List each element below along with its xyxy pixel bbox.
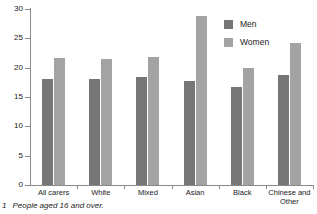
legend-swatch-men-icon	[224, 20, 233, 29]
y-tick-10	[25, 126, 30, 127]
bar-men	[42, 79, 53, 185]
category-label: Chinese and Other	[259, 188, 317, 206]
bar-women	[196, 16, 207, 185]
bar-women	[54, 58, 65, 185]
bar-women	[101, 59, 112, 185]
y-tick-label-25: 25	[14, 34, 23, 42]
bar-group	[184, 9, 207, 185]
legend-label-men: Men	[240, 20, 257, 29]
y-tick-5	[25, 156, 30, 157]
chart-legend: Men Women	[224, 20, 269, 56]
bar-women	[243, 68, 254, 185]
legend-item-women: Women	[224, 38, 269, 47]
bar-men	[89, 79, 100, 185]
y-tick-15	[25, 97, 30, 98]
bar-men	[136, 77, 147, 185]
y-tick-label-10: 10	[14, 122, 23, 130]
y-tick-label-30: 30	[14, 5, 23, 13]
y-tick-25	[25, 38, 30, 39]
bar-group	[42, 9, 65, 185]
plot-area: 051015202530	[30, 9, 313, 185]
y-tick-20	[25, 68, 30, 69]
bar-chart-figure: 051015202530 All carersWhiteMixedAsianBl…	[0, 0, 317, 214]
legend-item-men: Men	[224, 20, 269, 29]
bar-group	[136, 9, 159, 185]
bar-men	[231, 87, 242, 185]
footnote-text: People aged 16 and over.	[12, 201, 103, 211]
y-tick-30	[25, 9, 30, 10]
y-tick-0	[25, 185, 30, 186]
legend-swatch-women-icon	[224, 38, 233, 47]
bar-men	[278, 75, 289, 185]
y-tick-label-20: 20	[14, 64, 23, 72]
footnote: 1 People aged 16 and over.	[2, 201, 104, 211]
bar-women	[148, 57, 159, 185]
bar-group	[278, 9, 301, 185]
bar-women	[290, 43, 301, 185]
footnote-marker: 1	[2, 201, 6, 211]
bar-group	[89, 9, 112, 185]
y-tick-label-15: 15	[14, 93, 23, 101]
legend-label-women: Women	[240, 38, 269, 47]
y-tick-label-5: 5	[19, 152, 23, 160]
y-tick-label-0: 0	[19, 181, 23, 189]
bar-men	[184, 81, 195, 185]
